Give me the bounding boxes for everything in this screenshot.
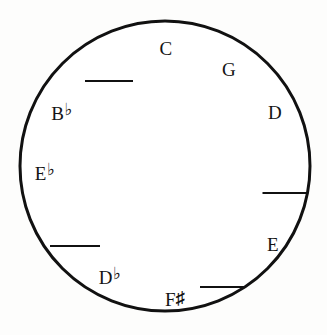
flat-sign-icon: ♭ xyxy=(65,100,73,119)
circle-of-fifths-diagram: CGDEF♯D♭E♭B♭ xyxy=(0,0,327,335)
note-letter: C xyxy=(160,38,173,59)
flat-sign-icon: ♭ xyxy=(113,264,121,283)
note-label-d-flat: D♭ xyxy=(99,265,122,287)
note-letter: F xyxy=(165,289,176,310)
note-letter: E xyxy=(35,163,47,184)
note-letter: E xyxy=(267,234,279,255)
note-label-b-flat: B♭ xyxy=(51,101,73,123)
note-letter: B xyxy=(51,103,64,124)
note-letter: D xyxy=(268,102,282,123)
circle-shape xyxy=(20,21,310,311)
note-label-f-sharp: F♯ xyxy=(165,289,185,308)
blank-answer-slot-right[interactable] xyxy=(263,192,308,194)
blank-answer-slot-upper-left[interactable] xyxy=(85,80,133,82)
sharp-sign-icon: ♯ xyxy=(176,288,185,308)
note-letter: D xyxy=(99,267,113,288)
blank-answer-slot-bottom-right[interactable] xyxy=(200,286,246,288)
note-letter: G xyxy=(222,59,236,80)
flat-sign-icon: ♭ xyxy=(47,160,55,179)
note-label-d: D xyxy=(268,103,282,122)
note-label-e-flat: E♭ xyxy=(35,161,56,183)
note-label-g: G xyxy=(222,60,236,79)
note-label-e: E xyxy=(267,235,279,254)
blank-answer-slot-lower-left[interactable] xyxy=(50,245,100,247)
note-label-c: C xyxy=(160,39,173,58)
